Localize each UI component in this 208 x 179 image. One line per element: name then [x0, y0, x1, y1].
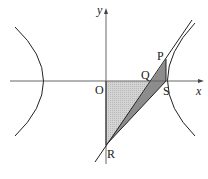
- y-axis-arrow-icon: [104, 8, 108, 14]
- hyperbola-diagram: y x O P Q S R: [0, 0, 208, 179]
- hyperbola-right-branch: [168, 23, 196, 136]
- point-p-label: P: [157, 50, 164, 62]
- point-q-label: Q: [141, 69, 150, 81]
- x-axis-arrow-icon: [198, 79, 204, 83]
- x-axis-label: x: [196, 85, 201, 97]
- point-r-label: R: [107, 148, 115, 160]
- y-axis-label: y: [97, 4, 102, 16]
- diagram-svg: [0, 0, 208, 179]
- origin-label: O: [95, 84, 104, 96]
- point-s-label: S: [163, 85, 170, 97]
